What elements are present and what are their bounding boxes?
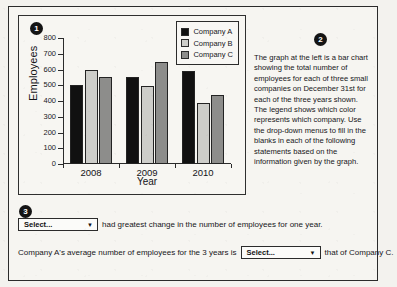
y-axis-tick [58, 133, 63, 134]
bar-company-b-2009 [141, 86, 154, 164]
bar-company-a-2009 [126, 77, 139, 164]
bar-company-c-2009 [155, 62, 168, 164]
worksheet-page: 1 Company A Company B Company C Employee… [8, 6, 378, 281]
y-axis-tick-label: 100 [43, 145, 56, 153]
y-axis-tick [58, 70, 63, 71]
x-axis-tick [175, 164, 176, 168]
legend-swatch-icon [181, 28, 189, 36]
y-axis-tick-label: 800 [43, 34, 56, 42]
statement-one-text: had greatest change in the number of emp… [102, 220, 323, 229]
legend-swatch-icon [181, 51, 189, 59]
marker-badge-1: 1 [30, 22, 43, 35]
x-axis-tick [63, 164, 64, 168]
statement-two-leading-text: Company A's average number of employees … [18, 248, 237, 257]
y-axis-tick-label: 400 [43, 97, 56, 105]
bar-company-c-2008 [99, 77, 112, 164]
x-axis-tick [119, 164, 120, 168]
bar-company-b-2010 [197, 103, 210, 164]
statement-one: Select... ▼ had greatest change in the n… [18, 218, 327, 231]
statement-two: Company A's average number of employees … [18, 246, 397, 259]
legend-item-company-c: Company C [181, 50, 233, 60]
y-axis-tick [58, 38, 63, 39]
dropdown-value: Select... [24, 220, 52, 229]
bar-company-c-2010 [211, 95, 224, 164]
legend-item-company-a: Company A [181, 27, 233, 37]
chevron-down-icon: ▼ [310, 250, 316, 256]
x-axis-tick [231, 164, 232, 168]
dropdown-statement-two[interactable]: Select... ▼ [241, 246, 321, 259]
y-axis-title: Employees [27, 46, 39, 101]
dropdown-value: Select... [247, 248, 275, 257]
description-text: The graph at the left is a bar chart sho… [254, 53, 370, 167]
y-axis-tick [58, 85, 63, 86]
y-axis-tick-label: 600 [43, 66, 56, 74]
bar-company-a-2008 [70, 85, 83, 164]
legend-label: Company A [193, 27, 232, 36]
y-axis-tick-label: 0 [52, 160, 56, 168]
description-panel: The graph at the left is a bar chart sho… [254, 15, 370, 195]
y-axis-tick [58, 148, 63, 149]
y-axis-tick-label: 300 [43, 113, 56, 121]
legend-swatch-icon [181, 39, 189, 47]
y-axis-tick [58, 101, 63, 102]
chart-container: 1 Company A Company B Company C Employee… [18, 15, 246, 195]
legend-item-company-b: Company B [181, 38, 233, 48]
y-axis-tick [58, 54, 63, 55]
y-axis-tick-label: 700 [43, 50, 56, 58]
y-axis-tick [58, 117, 63, 118]
y-axis-tick-label: 200 [43, 129, 56, 137]
dropdown-statement-one[interactable]: Select... ▼ [18, 218, 98, 231]
x-axis-title: Year [63, 176, 231, 187]
legend-label: Company B [193, 39, 232, 48]
bar-company-a-2010 [182, 71, 195, 164]
y-axis-line [63, 38, 64, 164]
statement-two-trailing-text: that of Company C. [325, 248, 394, 257]
marker-badge-2: 2 [314, 33, 327, 46]
bar-company-b-2008 [85, 70, 98, 165]
chart-legend: Company A Company B Company C [176, 21, 239, 65]
y-axis-tick-label: 500 [43, 82, 56, 90]
chevron-down-icon: ▼ [87, 222, 93, 228]
marker-badge-3: 3 [19, 205, 32, 218]
legend-label: Company C [193, 50, 233, 59]
